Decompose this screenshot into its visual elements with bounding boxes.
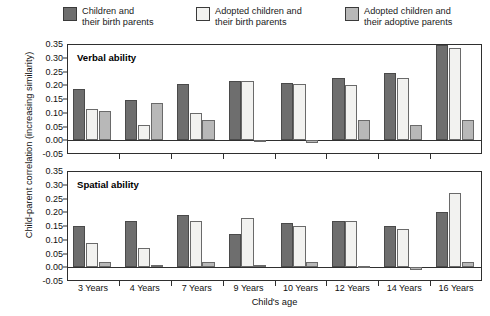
y-tick-label-spatial-5: 0.10 bbox=[29, 235, 63, 245]
bar-verbal-1-2 bbox=[151, 103, 163, 140]
bar-spatial-7-1 bbox=[449, 193, 461, 267]
legend-swatch-adopted-adoptive-parents bbox=[345, 7, 359, 21]
y-tick-label-verbal-8: -0.05 bbox=[29, 149, 63, 159]
legend-item-adopted-adoptive-parents: Adopted children and their adoptive pare… bbox=[345, 6, 452, 27]
bar-spatial-0-0 bbox=[73, 226, 85, 267]
x-tick-label-6: 14 Years bbox=[387, 283, 422, 293]
bar-verbal-2-0 bbox=[177, 84, 189, 140]
bar-verbal-5-1 bbox=[345, 85, 357, 140]
legend-label-adopted-birth-parents: Adopted children and their birth parents bbox=[215, 6, 302, 27]
x-tick-label-7: 16 Years bbox=[439, 283, 474, 293]
legend-label-line1: Adopted children and bbox=[364, 6, 451, 16]
legend-swatch-children-birth-parents bbox=[63, 7, 77, 21]
x-tick-label-5: 12 Years bbox=[335, 283, 370, 293]
y-tick-label-verbal-2: 0.25 bbox=[29, 67, 63, 77]
y-tick-label-spatial-3: 0.20 bbox=[29, 207, 63, 217]
bar-spatial-1-0 bbox=[125, 221, 137, 268]
legend-label-line2: their birth parents bbox=[215, 17, 287, 27]
bar-verbal-6-0 bbox=[384, 73, 396, 140]
y-tick-label-verbal-1: 0.30 bbox=[29, 53, 63, 63]
x-tick-label-3: 9 Years bbox=[234, 283, 264, 293]
bar-spatial-0-1 bbox=[86, 243, 98, 268]
panel-title-verbal: Verbal ability bbox=[77, 52, 136, 63]
legend-label-line1: Children and bbox=[82, 6, 134, 16]
bar-verbal-7-0 bbox=[436, 45, 448, 140]
x-group-separator-verbal-4 bbox=[275, 154, 276, 159]
bar-verbal-7-2 bbox=[462, 120, 474, 141]
legend-label-line2: their birth parents bbox=[82, 17, 154, 27]
bar-spatial-7-0 bbox=[436, 212, 448, 267]
bar-verbal-7-1 bbox=[449, 48, 461, 140]
legend-item-children-birth-parents: Children and their birth parents bbox=[63, 6, 154, 27]
bar-spatial-1-1 bbox=[138, 248, 150, 267]
x-group-separator-verbal-1 bbox=[119, 154, 120, 159]
legend-swatch-adopted-birth-parents bbox=[196, 7, 210, 21]
x-group-separator-verbal-2 bbox=[171, 154, 172, 159]
bar-verbal-3-0 bbox=[229, 81, 241, 140]
y-tick-label-spatial-4: 0.15 bbox=[29, 221, 63, 231]
bar-verbal-0-1 bbox=[86, 109, 98, 141]
y-tick-label-verbal-4: 0.15 bbox=[29, 94, 63, 104]
bar-verbal-3-2 bbox=[254, 140, 266, 142]
chart-legend: Children and their birth parents Adopted… bbox=[0, 6, 490, 38]
y-tick-label-spatial-8: -0.05 bbox=[29, 276, 63, 286]
bar-spatial-6-0 bbox=[384, 226, 396, 267]
bar-spatial-4-2 bbox=[306, 262, 318, 268]
x-tick-label-2: 7 Years bbox=[182, 283, 212, 293]
y-tick-label-verbal-5: 0.10 bbox=[29, 108, 63, 118]
legend-label-line1: Adopted children and bbox=[215, 6, 302, 16]
bar-spatial-6-1 bbox=[397, 229, 409, 268]
x-group-separator-verbal-7 bbox=[430, 154, 431, 159]
bar-verbal-4-2 bbox=[306, 140, 318, 143]
bar-verbal-5-2 bbox=[358, 120, 370, 141]
y-tick-label-verbal-0: 0.35 bbox=[29, 39, 63, 49]
x-tick-label-1: 4 Years bbox=[130, 283, 160, 293]
bar-spatial-5-1 bbox=[345, 221, 357, 268]
x-tick-label-4: 10 Years bbox=[283, 283, 318, 293]
bar-spatial-7-2 bbox=[462, 262, 474, 268]
bar-verbal-0-0 bbox=[73, 89, 85, 140]
x-group-separator-verbal-6 bbox=[378, 154, 379, 159]
bar-verbal-1-0 bbox=[125, 100, 137, 140]
y-tick-label-verbal-6: 0.05 bbox=[29, 122, 63, 132]
x-group-separator-verbal-5 bbox=[326, 154, 327, 159]
panel-title-spatial: Spatial ability bbox=[77, 179, 139, 190]
legend-item-adopted-birth-parents: Adopted children and their birth parents bbox=[196, 6, 302, 27]
bar-spatial-2-1 bbox=[190, 221, 202, 268]
x-axis-title: Child's age bbox=[67, 297, 482, 307]
legend-label-adopted-adoptive-parents: Adopted children and their adoptive pare… bbox=[364, 6, 452, 27]
bar-spatial-6-2 bbox=[410, 267, 422, 270]
bar-spatial-5-0 bbox=[332, 221, 344, 268]
bar-spatial-3-0 bbox=[229, 234, 241, 267]
bar-spatial-3-1 bbox=[241, 218, 253, 268]
bar-verbal-4-1 bbox=[293, 84, 305, 140]
bar-verbal-2-2 bbox=[202, 120, 214, 141]
chart-panel-spatial: Spatial ability 0.350.300.250.200.150.10… bbox=[67, 171, 482, 281]
y-tick-label-verbal-3: 0.20 bbox=[29, 80, 63, 90]
x-tick-label-0: 3 Years bbox=[78, 283, 108, 293]
bar-spatial-0-2 bbox=[99, 262, 111, 268]
y-tick-label-spatial-0: 0.35 bbox=[29, 166, 63, 176]
bar-spatial-2-0 bbox=[177, 215, 189, 267]
y-tick-label-spatial-1: 0.30 bbox=[29, 180, 63, 190]
bar-verbal-4-0 bbox=[281, 83, 293, 141]
chart-panel-verbal: Verbal ability 0.350.300.250.200.150.100… bbox=[67, 44, 482, 154]
bar-verbal-1-1 bbox=[138, 125, 150, 140]
bar-verbal-6-1 bbox=[397, 78, 409, 140]
bar-verbal-6-2 bbox=[410, 125, 422, 140]
x-axis-tick-labels: 3 Years4 Years7 Years9 Years10 Years12 Y… bbox=[67, 283, 482, 295]
bar-spatial-4-0 bbox=[281, 223, 293, 267]
bar-spatial-5-2 bbox=[358, 266, 370, 268]
bar-spatial-4-1 bbox=[293, 226, 305, 267]
y-tick-label-spatial-7: 0.00 bbox=[29, 262, 63, 272]
bar-verbal-0-2 bbox=[99, 111, 111, 140]
bar-spatial-1-2 bbox=[151, 265, 163, 268]
bar-spatial-3-2 bbox=[254, 265, 266, 268]
y-tick-label-spatial-6: 0.05 bbox=[29, 249, 63, 259]
bar-verbal-5-0 bbox=[332, 78, 344, 140]
legend-label-children-birth-parents: Children and their birth parents bbox=[82, 6, 154, 27]
bar-verbal-3-1 bbox=[241, 81, 253, 140]
bar-verbal-2-1 bbox=[190, 113, 202, 141]
bar-spatial-2-2 bbox=[202, 262, 214, 268]
y-tick-label-spatial-2: 0.25 bbox=[29, 194, 63, 204]
